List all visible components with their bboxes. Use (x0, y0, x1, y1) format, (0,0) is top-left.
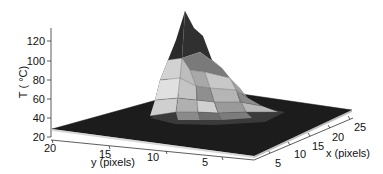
z-axis: 120 100 80 60 40 20 T ( °C) (17, 28, 51, 143)
z-tick-40: 40 (33, 112, 45, 124)
y-tick-20: 20 (44, 142, 56, 154)
peak-patch (176, 98, 198, 112)
x-tick-20: 20 (332, 131, 344, 143)
z-tick-80: 80 (33, 74, 45, 86)
y-tick-10: 10 (147, 151, 159, 163)
peak-patch (155, 78, 180, 100)
y-axis-label: y (pixels) (91, 156, 135, 168)
peak-patch (176, 112, 200, 120)
x-tick-5: 5 (275, 157, 281, 169)
z-axis-label: T ( °C) (17, 66, 29, 98)
x-tick-25: 25 (354, 121, 366, 133)
surface-plot: 120 100 80 60 40 20 T ( °C) 20 15 10 5 y… (0, 0, 383, 174)
peak-patch (160, 58, 182, 80)
surface (52, 11, 352, 158)
x-axis-label: x (pixels) (326, 147, 370, 159)
z-tick-60: 60 (33, 93, 45, 105)
z-tick-100: 100 (27, 55, 45, 67)
x-tick-10: 10 (294, 148, 306, 160)
y-tick-5: 5 (202, 156, 208, 168)
z-tick-120: 120 (27, 35, 45, 47)
x-tick-15: 15 (312, 140, 324, 152)
